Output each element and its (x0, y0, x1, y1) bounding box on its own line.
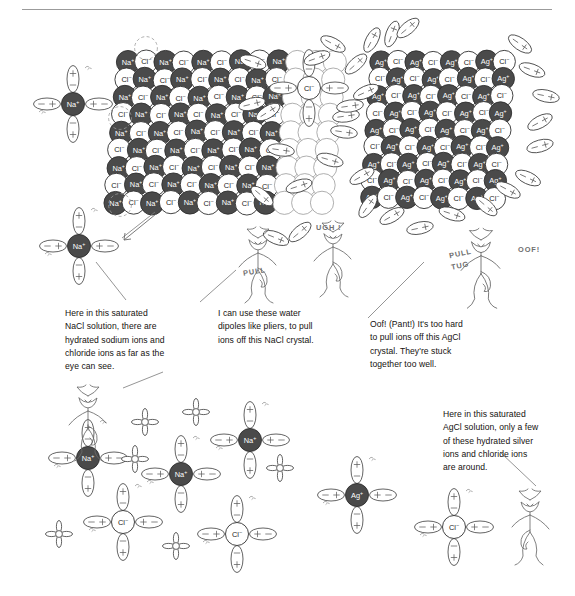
motion-wiggle (39, 110, 46, 113)
figure-artwork: Na+Cl−Na+Cl−Na+Cl−Na+Cl−Na+Cl−Na+Cl−Na+C… (0, 0, 575, 596)
water-dipole (517, 60, 546, 81)
water-dipole (117, 484, 129, 511)
motion-wiggle (193, 436, 200, 439)
free-water-molecule (163, 533, 190, 560)
water-dipole (231, 546, 243, 573)
caption-line: AgCl solution, only a few (443, 421, 571, 434)
motion-wiggle (420, 533, 427, 536)
water-dipole (86, 98, 113, 110)
pointer-arrow (124, 214, 156, 240)
water-dipole (244, 452, 256, 479)
leader-line (123, 372, 163, 388)
motion-wiggle (89, 528, 96, 531)
water-dipole (351, 507, 363, 534)
free-water-molecule (183, 399, 210, 426)
annotation-oof: OOF! (518, 245, 540, 254)
devil-pointing-agcl-solution (512, 489, 549, 565)
caption-line: dipoles like pliers, to pull (218, 320, 353, 333)
caption-line: ions and chloride ions (443, 448, 571, 461)
caption-line: Here in this saturated (65, 307, 200, 320)
caption-line: ions off this NaCl crystal. (218, 334, 353, 347)
hydrated-sodium-ion: Na+ (34, 66, 113, 143)
motion-wiggle (85, 66, 92, 69)
caption-line: NaCl solution, there are (65, 320, 200, 333)
water-dipole (261, 227, 291, 248)
hydrated-chloride-ion-core: Cl− (443, 516, 466, 539)
motion-wiggle (369, 457, 376, 460)
caption-line: eye can see. (65, 360, 200, 373)
water-dipole (49, 452, 76, 464)
caption-line: of these hydrated silver (443, 435, 571, 448)
caption-line: I can use these water (218, 307, 353, 320)
water-dipole (194, 468, 221, 480)
water-dipole (231, 496, 243, 523)
water-dipole (175, 486, 187, 513)
water-dipole (448, 539, 460, 566)
motion-wiggle (54, 464, 61, 467)
caption-agcl-too-hard: Oof! (Pant!) It's too hard to pull ions … (370, 318, 500, 371)
hydrated-chloride-ion: Cl− (415, 489, 494, 566)
caption-line: together too well. (370, 358, 500, 371)
water-dipole (40, 240, 67, 252)
caption-line: chloride ions as far as the (65, 347, 200, 360)
hydrated-chloride-ion-core: Cl− (112, 511, 135, 534)
motion-wiggle (45, 252, 52, 255)
caption-line: Here in this saturated (443, 408, 571, 421)
water-dipole (211, 434, 238, 446)
water-dipole (270, 82, 297, 94)
water-dipole (370, 489, 397, 501)
water-dipole (250, 528, 277, 540)
motion-wiggle (216, 446, 223, 449)
caption-line: hydrated sodium ions and (65, 334, 200, 347)
hydrated-sodium-ion-core: Na+ (77, 447, 100, 470)
water-dipole (263, 434, 290, 446)
water-dipole (303, 100, 315, 127)
hydrated-sodium-ion: Na+ (142, 436, 221, 513)
motion-wiggle (466, 489, 473, 492)
water-dipole (406, 219, 435, 236)
hydrated-sodium-ion-core: Na+ (68, 235, 91, 258)
motion-wiggle (203, 540, 210, 543)
hydrated-chloride-ion-core: Cl− (226, 523, 249, 546)
water-dipole (73, 208, 85, 235)
motion-wiggle (91, 208, 98, 211)
water-dipole (92, 240, 119, 252)
water-dipole (67, 116, 79, 143)
water-dipole (67, 66, 79, 93)
water-dipole (467, 521, 494, 533)
caption-nacl-solution: Here in this saturated NaCl solution, th… (65, 307, 200, 373)
caption-line: to pull ions off this AgCl (370, 331, 500, 344)
hydrated-sodium-ion-core: Na+ (239, 429, 262, 452)
motion-wiggle (147, 480, 154, 483)
leader-line (122, 212, 155, 238)
water-dipole (525, 110, 554, 133)
hydrated-chloride-ion: Cl− (198, 496, 277, 573)
water-dipole (117, 534, 129, 561)
hydrated-chloride-ion-core: Cl− (298, 77, 321, 100)
water-dipole (525, 137, 554, 156)
water-dipole (448, 489, 460, 516)
caption-line: are around. (443, 461, 571, 474)
motion-wiggle (323, 501, 330, 504)
hydrated-sodium-ion-core: Na+ (62, 93, 85, 116)
hydrated-sodium-ion: Na+ (49, 420, 128, 497)
water-dipole (34, 98, 61, 110)
water-dipole (84, 516, 111, 528)
agcl-crystal: Ag+Cl−Ag+Cl−Ag+Cl−Ag+Cl−Cl−Ag+Cl−Ag+Cl−A… (361, 50, 516, 210)
devil-straining-agcl (314, 221, 351, 297)
water-dipole (198, 528, 225, 540)
motion-wiggle (262, 402, 269, 405)
cartoon-characters (69, 221, 549, 565)
water-dipole (318, 489, 345, 501)
water-dipole (73, 258, 85, 285)
caption-water-pliers: I can use these water dipoles like plier… (218, 307, 353, 347)
hydrated-sodium-ion-core: Na+ (170, 463, 193, 486)
figure-page: Na+Cl−Na+Cl−Na+Cl−Na+Cl−Na+Cl−Na+Cl−Na+C… (0, 0, 575, 596)
water-dipole (360, 25, 383, 54)
caption-agcl-solution: Here in this saturated AgCl solution, on… (443, 408, 571, 474)
free-water-molecule (122, 446, 149, 473)
motion-wiggle (249, 496, 256, 499)
hydrated-silver-ion-core: Ag+ (346, 484, 369, 507)
annotation-ugh: UGH ! (316, 223, 341, 232)
hydrated-chloride-ion: Cl− (84, 484, 163, 561)
